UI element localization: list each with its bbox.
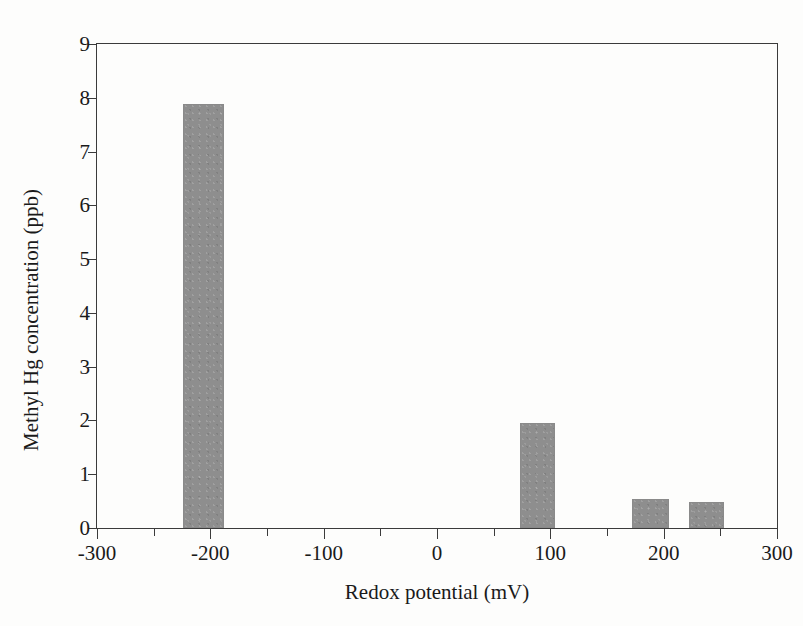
y-axis-tick-label: 0 [80,518,91,539]
y-axis-title: Methyl Hg concentration (ppb) [14,77,48,563]
plot-area [97,44,777,528]
x-axis-tick-label: 300 [761,543,793,564]
x-axis-tick [97,528,98,539]
x-axis-tick-label: -300 [78,543,117,564]
y-axis-tick-label: 3 [80,356,91,377]
bar [632,499,669,528]
x-axis-title: Redox potential (mV) [96,582,778,603]
x-axis-tick [664,528,665,539]
bar [689,502,724,528]
y-axis-tick-label: 9 [80,34,91,55]
x-axis-tick [437,528,438,539]
x-axis-minor-tick [154,528,155,536]
x-axis-tick-label: -200 [191,543,230,564]
x-axis-minor-tick [267,528,268,536]
x-axis-tick [777,528,778,539]
x-axis-minor-tick [720,528,721,536]
x-axis-minor-tick [607,528,608,536]
y-axis-tick-label: 7 [80,141,91,162]
bar [520,423,555,528]
x-axis-tick [550,528,551,539]
y-axis-tick-label: 5 [80,249,91,270]
plot-frame: 0123456789-300-200-1000100200300 [96,43,778,529]
y-axis-tick-label: 8 [80,87,91,108]
x-axis-tick [324,528,325,539]
x-axis-minor-tick [494,528,495,536]
x-axis-tick-label: 0 [432,543,443,564]
y-axis-tick-label: 1 [80,464,91,485]
bar [183,104,224,528]
x-axis-minor-tick [380,528,381,536]
x-axis-tick [210,528,211,539]
x-axis-tick-label: -100 [304,543,343,564]
y-axis-tick-label: 2 [80,410,91,431]
x-axis-tick-label: 100 [535,543,567,564]
x-axis-tick-label: 200 [648,543,680,564]
y-axis-tick-label: 4 [80,302,91,323]
y-axis-tick-label: 6 [80,195,91,216]
bar-chart-figure: 0123456789-300-200-1000100200300 Redox p… [0,0,803,626]
